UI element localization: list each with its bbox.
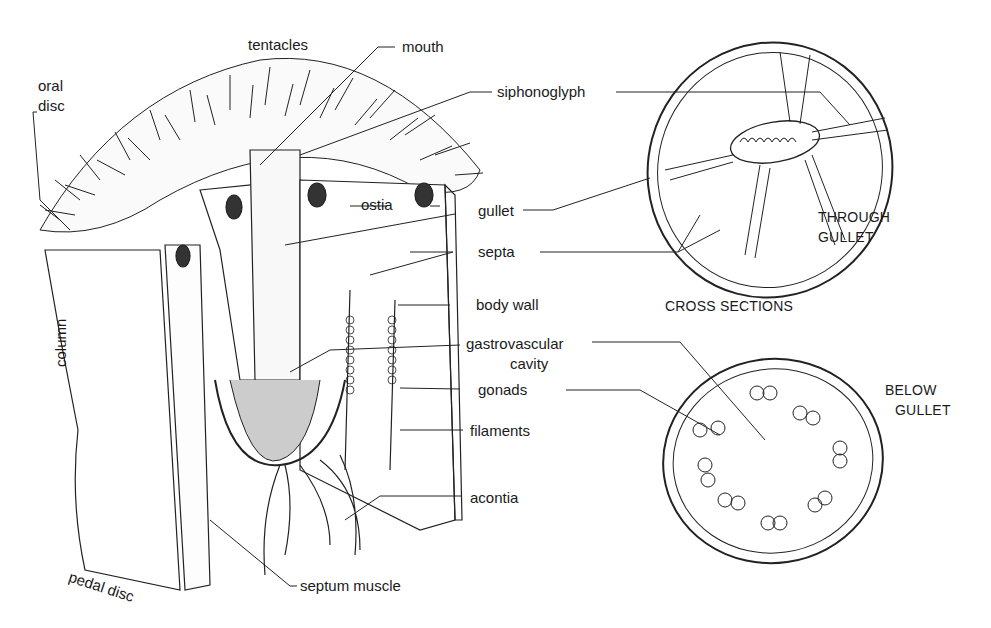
- label-gonads: gonads: [478, 381, 527, 398]
- label-through-gullet-2: GULLET: [818, 229, 874, 246]
- cross-section-through-gullet: [619, 15, 921, 325]
- label-oral-disc-2: disc: [38, 97, 65, 114]
- cross-section-below-gullet: [650, 345, 896, 578]
- label-through-gullet-1: THROUGH: [818, 209, 890, 226]
- label-septum-muscle: septum muscle: [300, 577, 401, 594]
- label-gastrovascular-2: cavity: [510, 355, 548, 372]
- label-ostia: ostia: [361, 196, 393, 213]
- label-acontia: acontia: [470, 489, 518, 506]
- label-septa: septa: [478, 243, 515, 260]
- label-column: column: [52, 319, 69, 367]
- label-gastrovascular-1: gastrovascular: [466, 335, 564, 352]
- label-mouth: mouth: [402, 38, 444, 55]
- label-body-wall: body wall: [476, 296, 539, 313]
- anemone-illustration: [0, 0, 991, 628]
- label-below-gullet-2: GULLET: [895, 402, 951, 419]
- label-gullet: gullet: [478, 202, 514, 219]
- label-oral-disc-1: oral: [38, 77, 63, 94]
- label-siphonoglyph: siphonoglyph: [497, 83, 585, 100]
- label-tentacles: tentacles: [248, 36, 308, 53]
- label-filaments: filaments: [470, 422, 530, 439]
- label-below-gullet-1: BELOW: [885, 382, 937, 399]
- cross-sections-title: CROSS SECTIONS: [665, 298, 793, 315]
